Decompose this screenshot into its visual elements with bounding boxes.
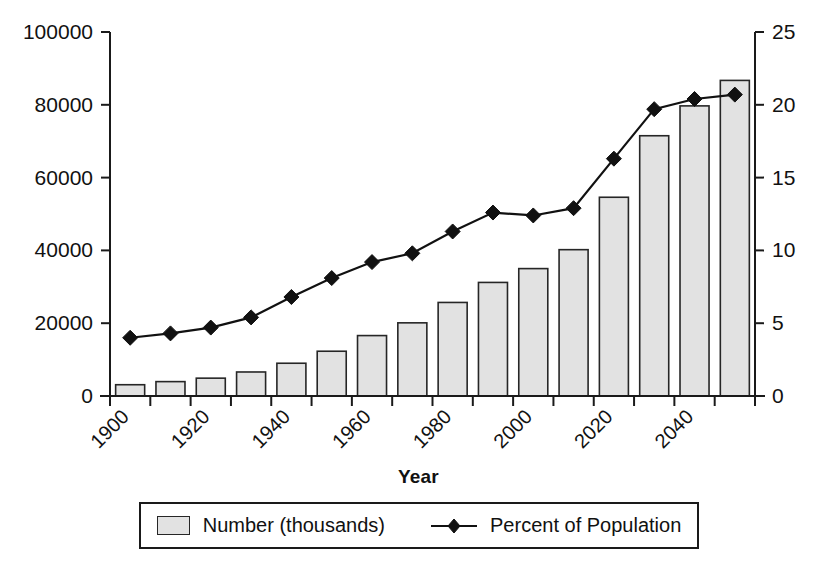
x-tick-label-1980: 1980	[408, 405, 455, 452]
left-tick-label-80000: 80000	[35, 93, 93, 116]
x-tick-label-1920: 1920	[167, 405, 214, 452]
legend-item-percent[interactable]: Percent of Population	[431, 514, 681, 537]
legend-label-number: Number (thousands)	[203, 514, 385, 537]
chart-legend: Number (thousands) Percent of Population	[139, 502, 699, 549]
left-tick-label-0: 0	[81, 384, 93, 407]
data-point-1910	[163, 326, 178, 341]
right-tick-label-25: 25	[772, 20, 795, 43]
right-tick-label-5: 5	[772, 311, 784, 334]
x-tick-label-2040: 2040	[650, 405, 697, 452]
bar-1900	[116, 385, 145, 396]
x-tick-label-2020: 2020	[570, 405, 617, 452]
x-tick-label-1960: 1960	[328, 405, 375, 452]
chart-figure: 0200004000060000800001000000510152025190…	[0, 0, 837, 584]
bar-2050	[720, 80, 749, 396]
bar-1920	[196, 378, 225, 396]
page-scan-artifact	[0, 568, 837, 584]
data-point-1940	[284, 289, 299, 304]
x-tick-label-1940: 1940	[247, 405, 294, 452]
bar-1910	[156, 382, 185, 396]
data-point-1950	[324, 271, 339, 286]
data-point-1970	[405, 246, 420, 261]
data-point-1990	[485, 205, 500, 220]
bar-1970	[398, 323, 427, 396]
bar-2020	[599, 197, 628, 396]
left-tick-label-100000: 100000	[23, 20, 93, 43]
data-point-2000	[526, 208, 541, 223]
right-tick-label-15: 15	[772, 166, 795, 189]
data-point-1930	[244, 310, 259, 325]
data-point-1960	[365, 255, 380, 270]
x-axis-title: Year	[0, 466, 837, 488]
left-tick-label-40000: 40000	[35, 238, 93, 261]
left-tick-label-60000: 60000	[35, 166, 93, 189]
data-point-1980	[445, 224, 460, 239]
right-tick-label-10: 10	[772, 238, 795, 261]
legend-swatch-icon	[157, 516, 190, 535]
bar-1950	[317, 351, 346, 396]
bar-1940	[277, 363, 306, 396]
bar-1990	[478, 282, 507, 396]
data-point-1920	[203, 320, 218, 335]
x-tick-label-1900: 1900	[86, 405, 133, 452]
right-tick-label-0: 0	[772, 384, 784, 407]
data-point-2040	[687, 91, 702, 106]
bar-2000	[519, 269, 548, 396]
left-tick-label-20000: 20000	[35, 311, 93, 334]
legend-label-percent: Percent of Population	[490, 514, 681, 537]
bar-1930	[237, 372, 266, 396]
bar-1960	[358, 336, 387, 396]
right-tick-label-20: 20	[772, 93, 795, 116]
chart-plot-area: 0200004000060000800001000000510152025190…	[0, 0, 837, 584]
x-tick-label-2000: 2000	[489, 405, 536, 452]
data-point-1900	[123, 330, 138, 345]
legend-item-number[interactable]: Number (thousands)	[157, 514, 385, 537]
bar-series-group	[116, 80, 750, 396]
legend-line-diamond-icon	[431, 517, 477, 535]
bar-2030	[640, 136, 669, 396]
bar-1980	[438, 302, 467, 396]
bar-2010	[559, 250, 588, 396]
bar-2040	[680, 106, 709, 396]
